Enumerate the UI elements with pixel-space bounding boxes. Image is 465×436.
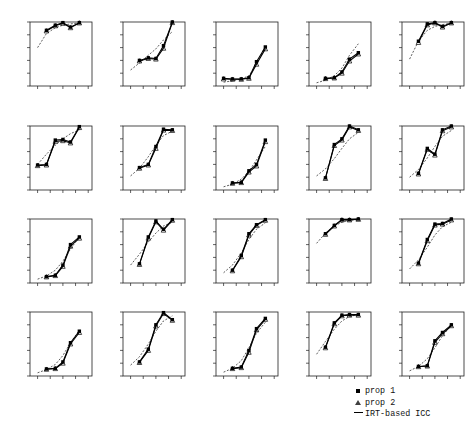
plot-area	[95, 298, 191, 386]
series-line	[232, 140, 265, 183]
series-line	[410, 130, 452, 177]
panel-item45	[281, 112, 377, 208]
series-line	[232, 220, 265, 271]
series-line	[139, 23, 172, 61]
dashed-line-glyph	[354, 412, 363, 413]
series-line	[139, 22, 172, 60]
series-line	[325, 315, 358, 348]
plot-area	[374, 205, 465, 293]
series-line	[410, 23, 452, 59]
plot-area	[2, 8, 98, 96]
panel-item57	[188, 205, 284, 301]
series-line	[224, 146, 266, 186]
legend-item: prop 1	[351, 386, 430, 398]
series-line	[38, 130, 80, 165]
series-line	[410, 325, 452, 370]
plot-area	[95, 8, 191, 96]
filled-square-marker	[351, 386, 365, 398]
series-line	[232, 142, 265, 184]
series-line	[325, 315, 358, 348]
series-line	[131, 32, 173, 70]
series-line	[325, 127, 358, 179]
plot-area	[2, 205, 98, 293]
panel-item22	[374, 8, 465, 104]
plot-area	[188, 8, 284, 96]
plot-area	[188, 205, 284, 293]
series-line	[325, 126, 358, 178]
series-line	[131, 131, 173, 176]
panel-item46	[374, 112, 465, 208]
plot-area	[2, 112, 98, 200]
panel-item1	[2, 8, 98, 104]
series-line	[325, 53, 358, 79]
series-line	[224, 223, 266, 273]
legend-item: IRT-based ICC	[351, 409, 430, 421]
panel-item37	[95, 112, 191, 208]
panel-item13	[188, 8, 284, 104]
legend: prop 1prop 2IRT-based ICC	[351, 386, 430, 421]
series-line	[418, 126, 451, 173]
panel-item93	[374, 298, 465, 394]
filled-square-marker-glyph	[356, 389, 361, 394]
figure-canvas: prop 1prop 2IRT-based ICC	[0, 0, 465, 436]
series-line	[232, 319, 265, 368]
series-line	[418, 23, 451, 43]
series-line	[418, 220, 451, 264]
series-line	[224, 49, 266, 79]
plot-area	[374, 112, 465, 200]
panel-item61	[281, 205, 377, 301]
series-line	[410, 222, 452, 269]
series-line	[224, 322, 266, 372]
panel-item47	[2, 205, 98, 301]
panel-item14	[281, 8, 377, 104]
series-line	[139, 130, 172, 168]
plot-area	[281, 298, 377, 386]
plot-area	[281, 205, 377, 293]
series-line	[317, 132, 359, 176]
series-line	[139, 313, 172, 362]
panel-item7	[95, 8, 191, 104]
plot-area	[95, 205, 191, 293]
plot-area	[374, 8, 465, 96]
series-line	[131, 222, 173, 265]
panel-item40	[188, 112, 284, 208]
panel-item36	[2, 112, 98, 208]
plot-area	[95, 112, 191, 200]
plot-area	[188, 298, 284, 386]
plot-area	[374, 298, 465, 386]
plot-area	[281, 112, 377, 200]
series-line	[224, 47, 266, 79]
legend-item-label: prop 2	[365, 398, 395, 410]
triangle-marker	[351, 398, 365, 410]
series-line	[139, 314, 172, 363]
legend-item-label: IRT-based ICC	[365, 409, 430, 421]
series-line	[418, 326, 451, 367]
series-line	[418, 127, 451, 174]
dashed-line	[351, 409, 365, 421]
panel-item67	[2, 298, 98, 394]
plot-area	[188, 112, 284, 200]
plot-area	[281, 8, 377, 96]
legend-item-label: prop 1	[365, 386, 395, 398]
series-line	[139, 220, 172, 264]
panel-item73	[188, 298, 284, 394]
panel-item55	[95, 205, 191, 301]
legend-item: prop 2	[351, 398, 430, 410]
triangle-marker-glyph	[355, 400, 361, 405]
panel-item65	[374, 205, 465, 301]
series-line	[38, 128, 80, 166]
panel-item69	[95, 298, 191, 394]
series-line	[224, 46, 266, 82]
plot-area	[2, 298, 98, 386]
panel-item81	[281, 298, 377, 394]
series-line	[46, 238, 79, 277]
